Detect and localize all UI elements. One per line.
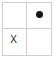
x-marker-label: X (10, 35, 17, 45)
two-by-two-grid: X (0, 0, 54, 58)
grid-cell-bottom-right[interactable] (27, 29, 51, 55)
grid-cell-top-left[interactable] (3, 3, 26, 28)
grid-cell-bottom-left[interactable]: X (3, 29, 26, 55)
grid-cell-top-right[interactable] (27, 3, 51, 28)
dot-icon (36, 11, 43, 18)
